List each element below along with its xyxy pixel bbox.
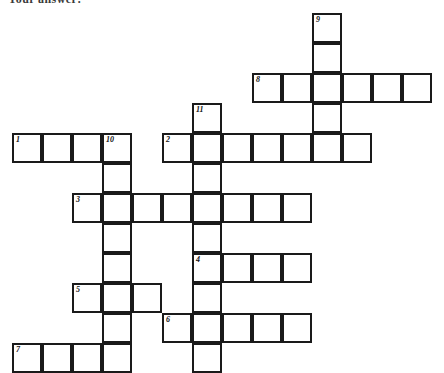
crossword-cell-letter[interactable] (104, 165, 130, 191)
crossword-cell-letter[interactable] (314, 105, 340, 131)
crossword-cell[interactable] (102, 193, 132, 223)
crossword-cell-letter[interactable] (314, 15, 340, 41)
crossword-cell[interactable] (102, 253, 132, 283)
crossword-cell-letter[interactable] (344, 75, 370, 101)
crossword-cell[interactable]: 11 (192, 103, 222, 133)
crossword-cell[interactable] (222, 193, 252, 223)
crossword-cell[interactable]: 1 (12, 133, 42, 163)
crossword-cell[interactable] (282, 133, 312, 163)
crossword-cell[interactable] (252, 253, 282, 283)
crossword-cell-letter[interactable] (14, 135, 40, 161)
crossword-cell[interactable]: 7 (12, 343, 42, 373)
crossword-cell-letter[interactable] (74, 345, 100, 371)
crossword-cell-letter[interactable] (134, 285, 160, 311)
crossword-cell[interactable] (102, 163, 132, 193)
crossword-cell[interactable]: 6 (162, 313, 192, 343)
crossword-cell[interactable] (132, 283, 162, 313)
crossword-cell[interactable] (282, 193, 312, 223)
crossword-cell-letter[interactable] (284, 315, 310, 341)
crossword-cell[interactable] (282, 73, 312, 103)
crossword-cell[interactable] (102, 313, 132, 343)
crossword-cell[interactable]: 3 (72, 193, 102, 223)
crossword-cell-letter[interactable] (254, 255, 280, 281)
crossword-cell[interactable]: 9 (312, 13, 342, 43)
crossword-cell-letter[interactable] (104, 255, 130, 281)
crossword-cell[interactable] (102, 283, 132, 313)
crossword-cell[interactable] (72, 343, 102, 373)
crossword-cell-letter[interactable] (314, 135, 340, 161)
crossword-cell-letter[interactable] (194, 165, 220, 191)
crossword-cell[interactable] (192, 343, 222, 373)
crossword-cell-letter[interactable] (374, 75, 400, 101)
crossword-cell[interactable]: 2 (162, 133, 192, 163)
crossword-cell[interactable] (192, 223, 222, 253)
crossword-cell[interactable] (312, 43, 342, 73)
crossword-cell[interactable] (132, 193, 162, 223)
crossword-cell[interactable] (252, 313, 282, 343)
crossword-cell-letter[interactable] (194, 195, 220, 221)
crossword-cell[interactable] (282, 313, 312, 343)
crossword-cell[interactable] (192, 163, 222, 193)
crossword-cell[interactable] (372, 73, 402, 103)
crossword-cell-letter[interactable] (104, 285, 130, 311)
crossword-cell-letter[interactable] (164, 315, 190, 341)
crossword-cell[interactable]: 5 (72, 283, 102, 313)
crossword-cell[interactable]: 4 (192, 253, 222, 283)
crossword-cell[interactable] (402, 73, 432, 103)
crossword-cell-letter[interactable] (14, 345, 40, 371)
crossword-cell-letter[interactable] (224, 255, 250, 281)
crossword-cell[interactable] (42, 133, 72, 163)
crossword-cell-letter[interactable] (314, 45, 340, 71)
crossword-cell-letter[interactable] (254, 135, 280, 161)
crossword-cell[interactable] (342, 73, 372, 103)
crossword-cell-letter[interactable] (224, 195, 250, 221)
crossword-cell-letter[interactable] (104, 195, 130, 221)
crossword-cell-letter[interactable] (254, 195, 280, 221)
crossword-cell-letter[interactable] (44, 345, 70, 371)
crossword-cell[interactable] (192, 283, 222, 313)
crossword-cell-letter[interactable] (104, 315, 130, 341)
crossword-cell[interactable] (252, 133, 282, 163)
crossword-cell[interactable] (162, 193, 192, 223)
crossword-cell-letter[interactable] (104, 345, 130, 371)
crossword-cell-letter[interactable] (194, 225, 220, 251)
crossword-cell-letter[interactable] (314, 75, 340, 101)
crossword-cell[interactable] (222, 133, 252, 163)
crossword-cell-letter[interactable] (344, 135, 370, 161)
crossword-cell[interactable] (282, 253, 312, 283)
crossword-cell-letter[interactable] (104, 225, 130, 251)
crossword-cell-letter[interactable] (194, 105, 220, 131)
crossword-cell-letter[interactable] (194, 315, 220, 341)
crossword-cell-letter[interactable] (224, 315, 250, 341)
crossword-cell[interactable] (342, 133, 372, 163)
crossword-cell[interactable] (312, 73, 342, 103)
crossword-cell[interactable] (102, 223, 132, 253)
crossword-cell[interactable]: 10 (102, 133, 132, 163)
crossword-cell-letter[interactable] (134, 195, 160, 221)
crossword-cell[interactable] (222, 313, 252, 343)
crossword-cell-letter[interactable] (164, 135, 190, 161)
crossword-cell-letter[interactable] (284, 135, 310, 161)
crossword-cell-letter[interactable] (164, 195, 190, 221)
crossword-cell-letter[interactable] (224, 135, 250, 161)
crossword-cell[interactable] (312, 103, 342, 133)
crossword-cell[interactable] (192, 193, 222, 223)
crossword-cell[interactable] (42, 343, 72, 373)
crossword-cell-letter[interactable] (194, 135, 220, 161)
crossword-cell[interactable] (72, 133, 102, 163)
crossword-cell[interactable]: 8 (252, 73, 282, 103)
crossword-cell[interactable] (222, 253, 252, 283)
crossword-cell-letter[interactable] (104, 135, 130, 161)
crossword-cell-letter[interactable] (284, 195, 310, 221)
crossword-cell-letter[interactable] (194, 285, 220, 311)
crossword-cell-letter[interactable] (194, 255, 220, 281)
crossword-cell[interactable] (192, 133, 222, 163)
crossword-cell[interactable] (192, 313, 222, 343)
crossword-cell-letter[interactable] (254, 75, 280, 101)
crossword-cell[interactable] (102, 343, 132, 373)
crossword-cell-letter[interactable] (74, 135, 100, 161)
crossword-cell[interactable] (312, 133, 342, 163)
crossword-cell-letter[interactable] (284, 255, 310, 281)
crossword-cell-letter[interactable] (74, 195, 100, 221)
